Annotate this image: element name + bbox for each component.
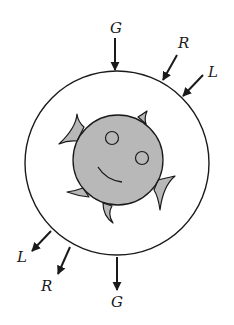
fish-eye-right [136, 152, 149, 165]
fish-body [73, 115, 163, 205]
label-top-g: G [110, 19, 122, 37]
label-bottom-r: R [40, 277, 52, 295]
label-top-r: R [177, 34, 189, 52]
fish-eye-left [106, 132, 119, 145]
label-bottom-l: L [16, 248, 27, 266]
arrow-bottom-l [32, 231, 51, 251]
arrow-bottom-r [58, 247, 70, 274]
force-diagram: G R L L R G [0, 0, 234, 325]
label-top-l: L [207, 63, 218, 81]
label-bottom-g: G [111, 293, 123, 311]
arrow-top-r [163, 55, 177, 80]
arrow-top-l [183, 75, 203, 96]
